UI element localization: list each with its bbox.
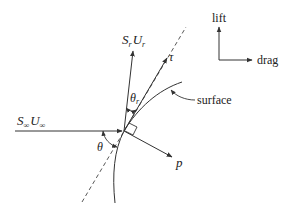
lift-drag-axes: lift drag [212,11,278,67]
drag-label: drag [257,53,278,67]
incoming-flux-label: S∞U∞ [17,113,46,130]
surface-label: surface [197,93,232,107]
reflection-angle-arc [126,108,136,111]
incidence-angle-label: θ [97,140,103,154]
reflection-angle-label: θr [130,91,140,106]
normal-label: p [175,155,183,170]
normal-pressure-arrow [124,131,172,157]
lift-label: lift [212,11,227,25]
right-angle-marker [125,123,137,135]
incidence-angle-arc [103,131,117,147]
tangent-label: τ [169,50,174,64]
surface-curve [114,82,182,203]
reflected-flux-label: SrUr [122,32,146,49]
diagram: S∞U∞ SrUr τ p surface θ θr lift drag [0,0,294,212]
surface-leader [171,90,195,100]
